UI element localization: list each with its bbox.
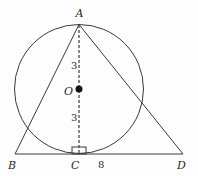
label-o: O <box>64 85 73 98</box>
measure-oc: 3 <box>71 112 77 123</box>
label-b: B <box>7 159 16 172</box>
measure-cd: 8 <box>98 159 104 170</box>
geometry-diagram: A O B C D 3 3 8 <box>0 0 198 176</box>
center-point-o <box>76 86 83 93</box>
label-c: C <box>71 159 80 172</box>
measure-ao: 3 <box>71 60 77 71</box>
segment-ad <box>79 25 183 155</box>
label-d: D <box>176 159 186 172</box>
label-a: A <box>75 7 84 20</box>
